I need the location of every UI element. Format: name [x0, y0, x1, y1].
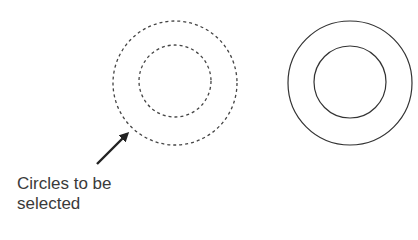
annotation-line-1: Circles to be: [17, 174, 111, 194]
unselected-circle-group[interactable]: [288, 21, 412, 145]
selected-circle-group[interactable]: [113, 21, 237, 145]
annotation-line-2: selected: [17, 194, 111, 213]
inner-dashed-circle[interactable]: [139, 45, 211, 117]
annotation-label: Circles to be selected: [17, 174, 111, 213]
outer-solid-circle[interactable]: [288, 21, 412, 145]
arrow-up-right-icon: [97, 134, 127, 164]
inner-solid-circle[interactable]: [314, 46, 386, 118]
outer-dashed-circle[interactable]: [113, 21, 237, 145]
